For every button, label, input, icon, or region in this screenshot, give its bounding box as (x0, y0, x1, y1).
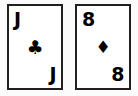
playing-card-jack-of-clubs[interactable]: J ♣ J (7, 4, 63, 90)
playing-card-eight-of-diamonds[interactable]: 8 ♦ 8 (75, 4, 131, 90)
card-table: J ♣ J 8 ♦ 8 (0, 0, 138, 96)
diamond-suit-icon: ♦ (77, 39, 129, 56)
card-rank-top-left: J (14, 10, 21, 29)
clubs-suit-icon: ♣ (9, 38, 61, 57)
card-rank-bottom-right: 8 (111, 65, 124, 84)
card-rank-top-left: 8 (82, 10, 95, 29)
card-rank-bottom-right: J (49, 65, 56, 84)
